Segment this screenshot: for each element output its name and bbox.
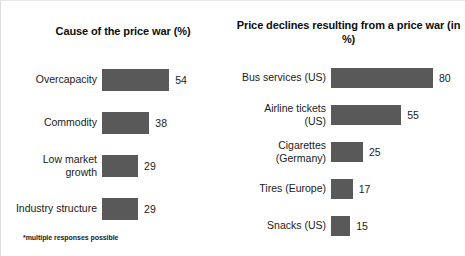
bar-row: Snacks (US)15 [241,207,465,244]
bar-wrapper: 17 [331,179,465,199]
cause-label: Low market growth [1,153,102,178]
price-decline-bar [331,142,363,162]
bar-wrapper: 15 [331,216,465,236]
cause-bar [102,69,169,91]
bar-row: Cigarettes (Germany)25 [241,133,465,170]
bar-row: Tires (Europe)17 [241,170,465,207]
cause-value: 38 [149,117,167,129]
bar-wrapper: 80 [331,68,465,88]
footnote: *multiple responses possible [23,234,118,241]
bar-wrapper: 29 [102,155,241,177]
bar-wrapper: 55 [331,105,465,125]
chart-title-cause: Cause of the price war (%) [3,25,243,39]
chart-title-price-declines: Price declines resulting from a price wa… [236,19,461,46]
cause-value: 54 [169,74,187,86]
cause-bar [102,112,149,134]
bar-rows-price-declines: Bus services (US)80Airline tickets (US)5… [241,59,465,244]
price-decline-label: Tires (Europe) [241,182,331,195]
cause-label: Overcapacity [1,73,102,86]
bar-wrapper: 25 [331,142,465,162]
price-decline-value: 55 [401,109,419,121]
chart-panel-price-declines: Price declines resulting from a price wa… [241,1,465,256]
bar-row: Commodity38 [1,101,241,144]
bar-wrapper: 38 [102,112,241,134]
cause-value: 29 [138,203,156,215]
chart-page: Cause of the price war (%) Overcapacity5… [0,0,465,256]
price-decline-label: Snacks (US) [241,219,331,232]
price-decline-value: 15 [350,220,368,232]
price-decline-bar [331,68,433,88]
bar-rows-cause: Overcapacity54Commodity38Low market grow… [1,58,241,230]
price-decline-value: 17 [353,183,371,195]
price-decline-value: 25 [363,146,381,158]
bar-row: Industry structure29 [1,187,241,230]
cause-value: 29 [138,160,156,172]
price-decline-label: Bus services (US) [241,71,331,84]
price-decline-bar [331,179,353,199]
bar-row: Low market growth29 [1,144,241,187]
cause-label: Industry structure [1,202,102,215]
chart-panel-cause: Cause of the price war (%) Overcapacity5… [1,1,241,256]
bar-row: Airline tickets (US)55 [241,96,465,133]
bar-wrapper: 54 [102,69,241,91]
cause-bar [102,155,138,177]
cause-bar [102,198,138,220]
cause-label: Commodity [1,116,102,129]
bar-row: Bus services (US)80 [241,59,465,96]
price-decline-value: 80 [433,72,451,84]
price-decline-label: Airline tickets (US) [241,102,331,127]
price-decline-label: Cigarettes (Germany) [241,139,331,164]
bar-wrapper: 29 [102,198,241,220]
bar-row: Overcapacity54 [1,58,241,101]
price-decline-bar [331,216,350,236]
price-decline-bar [331,105,401,125]
